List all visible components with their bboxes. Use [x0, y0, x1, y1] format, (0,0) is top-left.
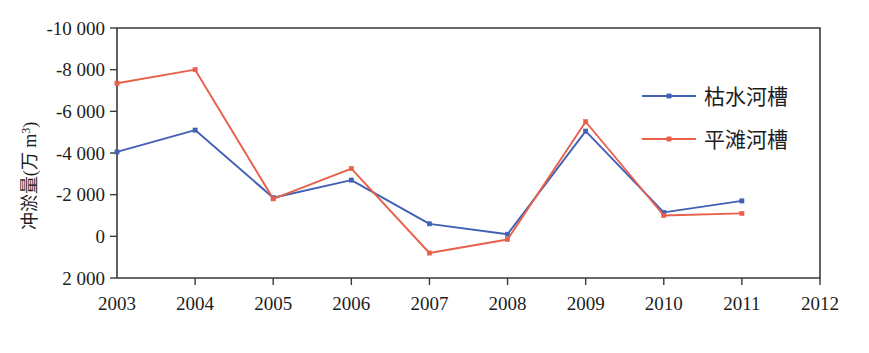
x-tick-label: 2003 [98, 293, 136, 314]
data-point-marker [193, 68, 197, 72]
data-point-marker [115, 81, 119, 85]
y-axis-title: 冲淤量(万 m3) [19, 122, 41, 231]
x-tick-label: 2010 [645, 293, 683, 314]
x-tick-label: 2012 [801, 293, 839, 314]
x-tick-label: 2006 [332, 293, 370, 314]
y-tick-label: -8 000 [56, 59, 105, 80]
line-chart: -10 000-8 000-6 000-4 000-2 00002 000 20… [0, 0, 869, 353]
data-point-marker [427, 222, 431, 226]
chart-container: -10 000-8 000-6 000-4 000-2 00002 000 20… [0, 0, 869, 353]
legend-marker [667, 94, 671, 98]
data-point-marker [427, 251, 431, 255]
data-point-marker [349, 178, 353, 182]
data-point-marker [584, 129, 588, 133]
x-tick-label: 2004 [176, 293, 215, 314]
x-tick-label: 2008 [489, 293, 527, 314]
x-tick-label: 2009 [567, 293, 605, 314]
legend-label: 枯水河槽 [704, 85, 788, 109]
y-tick-label: -10 000 [46, 18, 105, 39]
data-point-marker [662, 213, 666, 217]
y-tick-label: -4 000 [56, 143, 105, 164]
data-point-marker [505, 237, 509, 241]
data-point-marker [740, 199, 744, 203]
x-tick-label: 2007 [410, 293, 448, 314]
y-axis-title-main: 冲淤量(万 m [20, 134, 41, 231]
x-tick-label: 2011 [723, 293, 760, 314]
y-tick-label: -2 000 [56, 184, 105, 205]
y-tick-label: 2 000 [62, 268, 105, 289]
data-point-marker [115, 150, 119, 154]
x-tick-label: 2005 [254, 293, 292, 314]
data-point-marker [740, 211, 744, 215]
y-axis-title-tail: ) [20, 122, 41, 128]
data-point-marker [193, 128, 197, 132]
data-point-marker [349, 167, 353, 171]
y-tick-label: 0 [96, 226, 106, 247]
y-tick-label: -6 000 [56, 101, 105, 122]
legend-label: 平滩河槽 [704, 128, 788, 152]
data-point-marker [271, 197, 275, 201]
svg-text:冲淤量(万 m3): 冲淤量(万 m3) [19, 122, 41, 231]
data-point-marker [584, 120, 588, 124]
legend-marker [667, 137, 671, 141]
